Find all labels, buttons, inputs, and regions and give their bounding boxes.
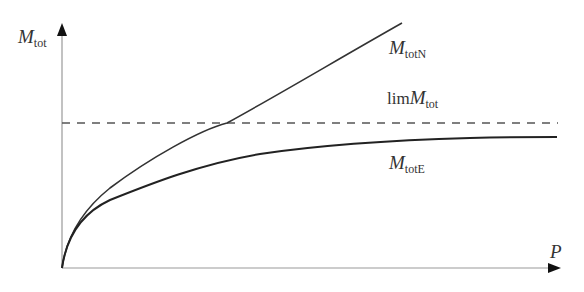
y-axis-arrow-icon [57, 23, 67, 36]
x-axis-arrow-icon [548, 263, 561, 273]
label-mtote: MtotE [389, 152, 425, 177]
x-axis-label: P [550, 241, 562, 263]
diagram-canvas [0, 0, 584, 292]
label-limmtot: limMtot [387, 87, 438, 112]
y-axis-label: Mtot [18, 26, 47, 51]
curve-mtotn [62, 23, 402, 268]
curve-mtote [62, 137, 557, 268]
label-mtotn: MtotN [389, 37, 426, 62]
